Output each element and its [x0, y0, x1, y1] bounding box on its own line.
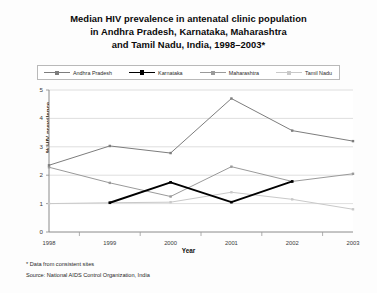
x-axis-tick: 2000	[151, 240, 191, 246]
chart-title-line-1: Median HIV prevalence in antenatal clini…	[0, 12, 377, 25]
x-axis-tick: 1999	[90, 240, 130, 246]
y-axis-tick: 0	[29, 228, 43, 235]
footnote-note: * Data from consistent sites	[26, 259, 150, 270]
legend-item-tamil-nadu: Tamil Nadu	[276, 69, 333, 76]
legend-item-maharashtra: Maharashtra	[200, 69, 260, 76]
chart-title-line-3: and Tamil Nadu, India, 1998–2003*	[0, 38, 377, 51]
legend-swatch-tamil-nadu	[276, 69, 302, 76]
legend-label-maharashtra: Maharashtra	[229, 70, 260, 76]
legend-swatch-maharashtra	[200, 69, 226, 76]
chart-title: Median HIV prevalence in antenatal clini…	[0, 12, 377, 52]
y-axis-tick: 1	[29, 200, 43, 207]
legend-label-tamil-nadu: Tamil Nadu	[305, 70, 333, 76]
chart-figure: Median HIV prevalence in antenatal clini…	[0, 0, 377, 293]
x-axis-tick: 1998	[29, 240, 69, 246]
chart-footnotes: * Data from consistent sites Source: Nat…	[26, 259, 150, 280]
chart-legend: Andhra Pradesh Karnataka Maharashtra Tam…	[37, 65, 340, 80]
x-axis-tick: 2001	[211, 240, 251, 246]
y-axis-tick: 3	[29, 143, 43, 150]
y-axis-tick: 4	[29, 114, 43, 121]
y-axis-tick: 2	[29, 171, 43, 178]
x-axis-title: Year	[0, 247, 377, 254]
legend-swatch-karnataka	[129, 69, 155, 76]
legend-label-andhra-pradesh: Andhra Pradesh	[73, 70, 113, 76]
footnote-source: Source: National AIDS Control Organizati…	[26, 270, 150, 281]
legend-label-karnataka: Karnataka	[158, 70, 184, 76]
x-axis-tick: 2003	[333, 240, 373, 246]
chart-title-line-2: in Andhra Pradesh, Karnataka, Maharashtr…	[0, 25, 377, 38]
plot-canvas	[0, 84, 377, 244]
plot-area: 012345199819992000200120022003	[0, 84, 377, 244]
legend-item-andhra-pradesh: Andhra Pradesh	[44, 69, 113, 76]
y-axis-tick: 5	[29, 86, 43, 93]
legend-swatch-andhra-pradesh	[44, 69, 70, 76]
legend-item-karnataka: Karnataka	[129, 69, 184, 76]
x-axis-tick: 2002	[272, 240, 312, 246]
